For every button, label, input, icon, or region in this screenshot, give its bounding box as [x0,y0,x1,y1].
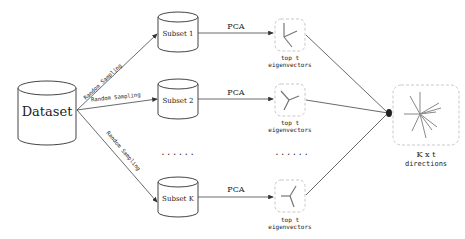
result-label-1: K x t [417,150,437,159]
result-label-2: directions [405,160,447,168]
subset-label: Subset K [162,195,195,203]
sampling-label-k: Random Sampling [105,130,142,173]
subset-label: Subset 2 [162,97,193,105]
eigenvector-box-2: top t eigenvectors [268,84,312,134]
eigenvector-box-k: top t eigenvectors [268,180,312,231]
subset-1: Subset 1 [158,12,198,52]
result-box: K x t directions [393,85,459,168]
pipeline-diagram: Dataset Random Sampling Random Sampling … [0,0,465,239]
pca-label-k: PCA [227,185,245,194]
pca-label-1: PCA [227,22,245,31]
subset-label: Subset 1 [162,30,193,38]
pca-label-2: PCA [227,88,245,97]
ellipsis-right: ...... [275,148,310,157]
eig-label-kb: eigenvectors [268,223,312,231]
ellipsis-left: ...... [161,148,196,157]
convergence-lines [306,35,388,195]
subset-2: Subset 2 [158,79,198,119]
dataset-label: Dataset [22,104,74,119]
eig-label-2b: eigenvectors [268,126,312,134]
sampling-arrow-2 [77,99,157,110]
directions-glyph [404,92,441,138]
eigenvector-glyph [281,186,296,207]
eigenvector-glyph [281,91,299,110]
sampling-arrow-k [77,110,157,202]
eigenvector-box-1: top t eigenvectors [268,19,312,69]
subset-k: Subset K [158,177,198,217]
sampling-label-2: Random Sampling [91,91,141,103]
eigenvector-glyph [284,23,297,47]
sampling-arrows [77,34,157,202]
eig-label-1b: eigenvectors [268,61,312,69]
dataset-cylinder: Dataset [18,81,76,145]
merge-point [386,109,392,117]
